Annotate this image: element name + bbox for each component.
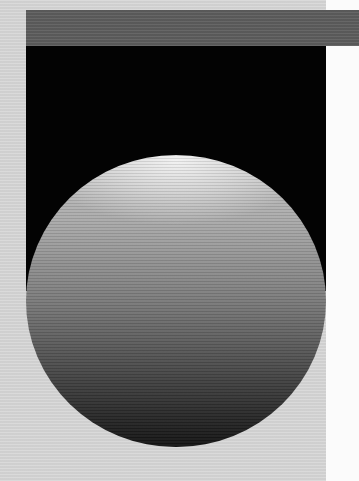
gray-top-bar (26, 10, 359, 46)
right-margin-strip (326, 0, 359, 481)
shaded-sphere (26, 155, 326, 447)
